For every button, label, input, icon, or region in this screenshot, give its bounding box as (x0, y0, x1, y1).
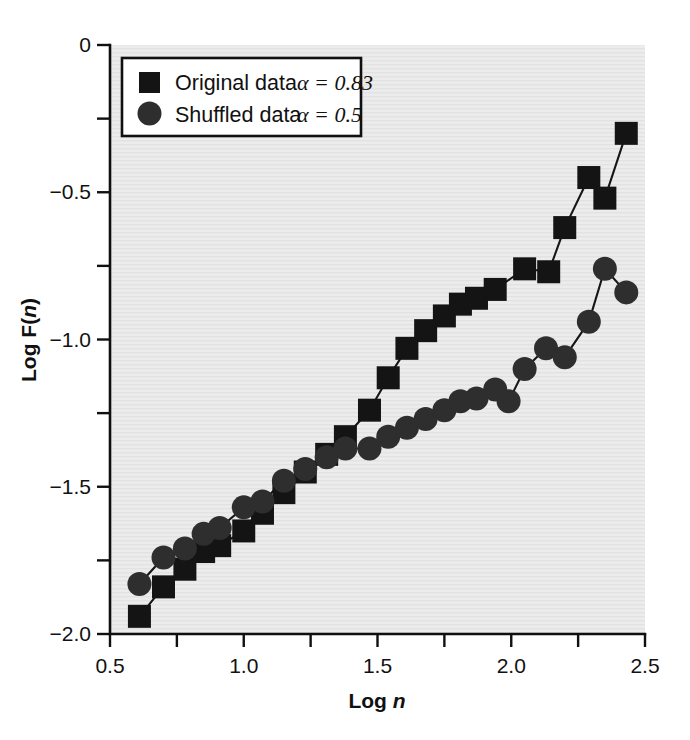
figure-container: 0.51.01.52.02.5 0−0.5−1.0−1.5−2.0 Log n … (0, 0, 690, 740)
data-point-circle (513, 357, 537, 381)
data-point-circle (614, 280, 638, 304)
y-axis-major-ticks (97, 45, 110, 634)
dfa-loglog-chart: 0.51.01.52.02.5 0−0.5−1.0−1.5−2.0 Log n … (0, 0, 690, 740)
data-point-circle (173, 537, 197, 561)
y-tick-label: −0.5 (50, 180, 91, 203)
x-axis-title: Log n (348, 689, 405, 712)
y-tick-label: −2.0 (50, 622, 91, 645)
data-point-circle (593, 257, 617, 281)
data-point-square (593, 187, 616, 210)
data-point-circle (208, 516, 232, 540)
data-point-square (537, 260, 560, 283)
x-tick-label: 1.5 (363, 654, 392, 677)
x-tick-label: 2.5 (630, 654, 659, 677)
data-point-square (128, 605, 151, 628)
y-tick-label: −1.0 (50, 328, 91, 351)
data-point-circle (250, 489, 274, 513)
data-point-circle (127, 572, 151, 596)
legend-marker-square-icon (139, 72, 160, 93)
data-point-square (615, 122, 638, 145)
data-point-square (577, 166, 600, 189)
x-axis-tick-labels: 0.51.01.52.02.5 (95, 654, 659, 677)
data-point-square (484, 278, 507, 301)
data-point-circle (577, 310, 601, 334)
data-point-square (152, 575, 175, 598)
x-tick-label: 1.0 (229, 654, 258, 677)
legend: Original data α = 0.83 Shuffled data α =… (122, 58, 373, 136)
legend-alpha-original: α = 0.83 (297, 70, 373, 95)
x-axis-major-ticks (110, 634, 645, 647)
legend-label-original: Original data (175, 71, 297, 95)
data-point-square (358, 399, 381, 422)
legend-marker-circle-icon (138, 102, 162, 126)
y-axis-tick-labels: 0−0.5−1.0−1.5−2.0 (50, 33, 91, 645)
data-point-circle (293, 457, 317, 481)
data-point-square (553, 216, 576, 239)
data-point-square (513, 257, 536, 280)
x-tick-label: 0.5 (95, 654, 124, 677)
y-tick-label: −1.5 (50, 475, 91, 498)
y-tick-label: 0 (79, 33, 91, 56)
data-point-circle (272, 469, 296, 493)
x-tick-label: 2.0 (497, 654, 526, 677)
y-axis-title: Log F(n) (17, 298, 40, 382)
data-point-circle (553, 345, 577, 369)
data-point-circle (152, 545, 176, 569)
data-point-square (377, 366, 400, 389)
legend-label-shuffled: Shuffled data (175, 103, 301, 127)
data-point-circle (333, 436, 357, 460)
data-point-circle (497, 389, 521, 413)
legend-alpha-shuffled: α = 0.5 (297, 102, 362, 127)
